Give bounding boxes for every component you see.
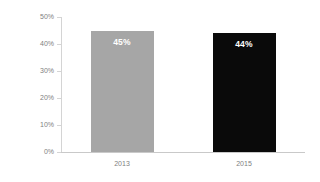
bar[interactable]: 45% [91,31,154,153]
y-axis-tick-label: 50% [24,12,54,22]
x-axis-category-label: 2013 [92,158,152,170]
bar-chart: Percent of respondents 0%10%20%30%40%50%… [0,0,320,182]
x-axis-category-label: 2015 [214,158,274,170]
bar[interactable]: 44% [213,33,276,152]
y-axis-tick-label: 10% [24,120,54,130]
plot-area: 45%44% [61,17,305,152]
y-axis-tick-label: 0% [24,147,54,157]
bar-value-label: 44% [213,39,276,49]
y-axis-tick-label: 40% [24,39,54,49]
y-axis-tick-label: 20% [24,93,54,103]
x-axis-line [61,152,305,153]
bar-value-label: 45% [91,37,154,47]
y-axis-tick-label: 30% [24,66,54,76]
